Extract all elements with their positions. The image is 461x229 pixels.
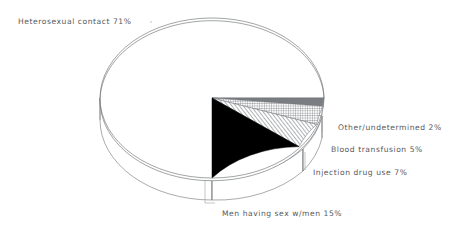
label-men-having-sex-with-men: Men having sex w/men 15% <box>222 209 342 218</box>
label-blood-transfusion: Blood transfusion 5% <box>331 145 423 154</box>
pie-chart-figure: Heterosexual contact 71% Other/undetermi… <box>0 0 461 229</box>
label-injection-drug-use: Injection drug use 7% <box>313 168 407 177</box>
pie-chart-svg: Heterosexual contact 71% Other/undetermi… <box>0 0 461 229</box>
label-heterosexual-contact: Heterosexual contact 71% <box>18 17 132 26</box>
pie-top-face <box>100 18 324 181</box>
label-other-undetermined: Other/undetermined 2% <box>338 123 442 132</box>
